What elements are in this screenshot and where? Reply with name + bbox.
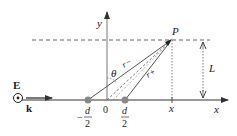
diagram-canvas: E k y x 0 P θ r− r+ L x − d 2 d 2	[0, 0, 237, 136]
label-L: L	[208, 62, 215, 74]
label-y-axis: y	[96, 17, 102, 29]
label-k: k	[26, 102, 33, 114]
label-r-minus: r−	[120, 56, 133, 69]
label-x-tick: x	[168, 102, 174, 114]
label-x-axis: x	[213, 103, 219, 115]
label-P: P	[171, 25, 179, 37]
label-origin: 0	[103, 104, 108, 115]
label-left-sign: −	[77, 112, 83, 123]
ray-center-dashed	[107, 41, 170, 100]
label-right-num: d	[122, 105, 128, 116]
ray-r-minus	[88, 41, 170, 100]
label-E: E	[13, 79, 20, 91]
label-right-den: 2	[122, 118, 127, 129]
label-left-den: 2	[85, 118, 90, 129]
source-left	[85, 97, 92, 104]
label-left-num: d	[85, 105, 91, 116]
field-dot	[17, 97, 20, 100]
ray-dashed-2	[113, 42, 170, 100]
label-theta: θ	[111, 67, 117, 79]
source-right	[122, 97, 129, 104]
label-r-plus: r+	[144, 66, 157, 79]
